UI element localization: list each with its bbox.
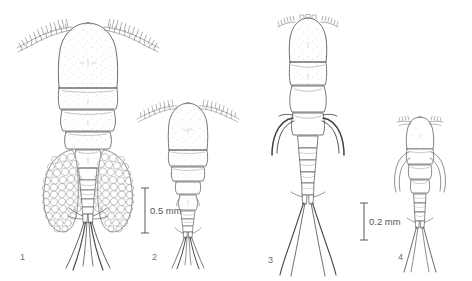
figure-2-cephalothorax bbox=[168, 103, 208, 150]
figure-label-4: 4 bbox=[398, 252, 403, 262]
figure-label-1: 1 bbox=[20, 252, 25, 262]
figure-1-cephalothorax bbox=[58, 23, 117, 88]
figure-4-urosome bbox=[414, 194, 426, 221]
figure-4-somite-3 bbox=[410, 180, 429, 193]
figure-2-somite-2 bbox=[171, 167, 204, 181]
illustration-plate: 0.5 mm 0.2 mm 1 2 3 4 bbox=[0, 0, 472, 281]
figure-4-somite-2 bbox=[408, 165, 431, 179]
figure-1-somite-2 bbox=[61, 110, 116, 131]
figure-3-somite-2 bbox=[290, 86, 327, 112]
figure-label-2: 2 bbox=[152, 252, 157, 262]
figure-3-somite-3 bbox=[292, 113, 325, 135]
figure-4-somite-1 bbox=[406, 149, 433, 164]
copepod-plate-drawing bbox=[0, 0, 472, 281]
figure-1-somite-1 bbox=[58, 88, 117, 109]
scale-bar-right-label: 0.2 mm bbox=[369, 216, 401, 227]
figure-2-somite-1 bbox=[168, 150, 207, 166]
figure-3-somite-1 bbox=[289, 62, 326, 85]
figure-4-cephalothorax bbox=[406, 117, 434, 149]
figure-2-somite-3 bbox=[175, 182, 200, 194]
figure-2-urosome bbox=[181, 211, 195, 232]
figure-label-3: 3 bbox=[268, 255, 273, 265]
figure-1-somite-3 bbox=[65, 132, 112, 149]
scale-bar-left-label: 0.5 mm bbox=[150, 205, 182, 216]
